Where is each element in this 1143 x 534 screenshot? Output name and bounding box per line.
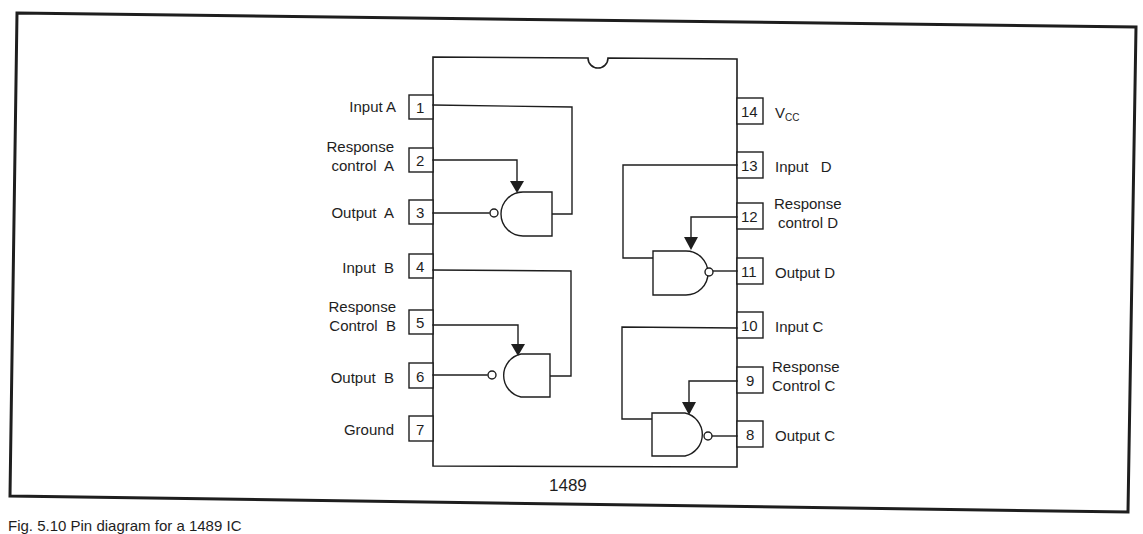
pin-2-label-line1: Response [326, 137, 394, 156]
pin-2-label-line2: control A [326, 156, 394, 175]
pin-4-number: 4 [416, 258, 424, 275]
gate-d-control-arrow [684, 237, 698, 250]
gate-d [623, 165, 737, 295]
pin-9-number: 9 [746, 372, 754, 389]
pin-11-label: Output D [775, 263, 835, 282]
pin-10-label-text: Input C [775, 318, 823, 335]
pin-7-label: Ground [344, 420, 394, 439]
figure-caption: Fig. 5.10 Pin diagram for a 1489 IC [8, 517, 241, 534]
pin-6-label-text: Output B [331, 369, 394, 386]
pin-12-label-line2: control D [774, 213, 842, 232]
pin-1-label: Input A [349, 97, 396, 116]
pin-12-label: Responsecontrol D [774, 194, 842, 232]
pin-7-number: 7 [416, 421, 424, 438]
gate-c [622, 327, 737, 456]
pin-4-label: Input B [342, 258, 394, 277]
pin-7-label-text: Ground [344, 421, 394, 438]
pin-10-label: Input C [775, 317, 823, 336]
pin-14-number: 14 [741, 103, 758, 120]
pin-12-number: 12 [741, 208, 758, 225]
figure-frame [10, 13, 1136, 512]
pin-11-label-text: Output D [775, 264, 835, 281]
pin-1-label-text: Input A [349, 98, 396, 115]
gate-a [433, 105, 572, 236]
pin-6-number: 6 [416, 368, 424, 385]
pin-13-number: 13 [741, 157, 758, 174]
pin-4-label-text: Input B [342, 259, 394, 276]
chip-part-number: 1489 [549, 476, 587, 496]
pin-9-label-line1: Response [772, 357, 840, 376]
pin-6-label: Output B [331, 368, 394, 387]
vcc-label-main: V [775, 104, 785, 121]
pin-3-label: Output A [331, 203, 394, 222]
gate-a-control-arrow [510, 181, 524, 193]
vcc-label-sub: CC [785, 112, 799, 123]
pin-13-label: Input D [775, 157, 832, 176]
pin-10-number: 10 [741, 317, 758, 334]
pin-2-number: 2 [416, 152, 424, 169]
pin-3-label-text: Output A [331, 204, 394, 221]
pin-2-label: Responsecontrol A [326, 137, 394, 175]
pin-5-number: 5 [416, 314, 424, 331]
pin-12-label-line1: Response [774, 194, 842, 213]
pin-11-number: 11 [741, 263, 757, 280]
pin-5-label-line1: Response [328, 297, 396, 316]
gate-b [433, 270, 571, 397]
pin-3-number: 3 [416, 204, 424, 221]
pin-14-label: VCC [775, 103, 799, 127]
pin-9-label: ResponseControl C [772, 357, 840, 395]
pin-9-label-line2: Control C [772, 376, 840, 395]
pin-8-label-text: Output C [775, 427, 835, 444]
pin-13-label-text: Input D [775, 158, 832, 175]
pin-5-label-line2: Control B [328, 316, 396, 335]
pin-8-label: Output C [775, 426, 835, 445]
pin-1-number: 1 [416, 99, 424, 116]
pin-8-number: 8 [746, 426, 754, 443]
pin-5-label: ResponseControl B [328, 297, 396, 335]
